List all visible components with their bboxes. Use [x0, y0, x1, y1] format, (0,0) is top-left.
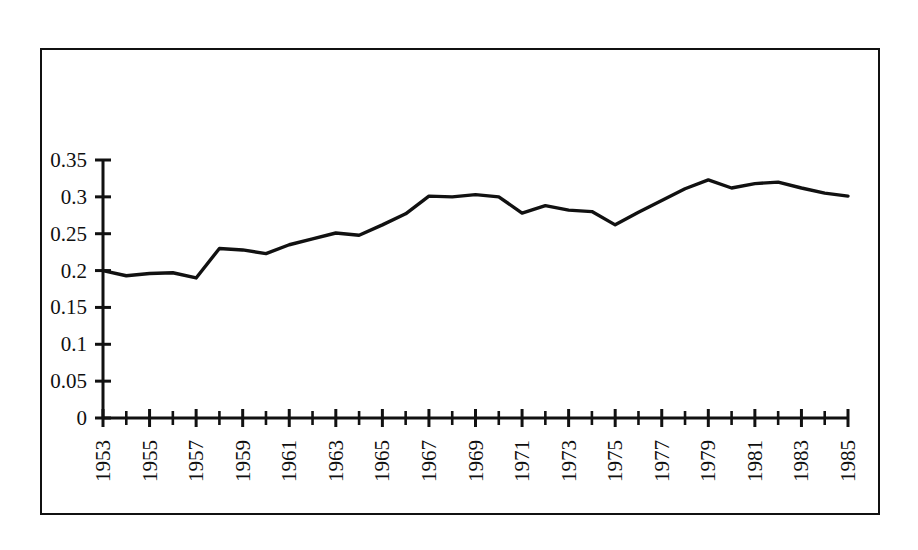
x-tick-label-1961: 1961 — [277, 440, 301, 482]
x-tick-label-1963: 1963 — [324, 440, 348, 482]
y-tick-label-0.15: 0.15 — [50, 295, 87, 319]
figure: 00.050.10.150.20.250.30.3519531955195719… — [0, 0, 918, 550]
x-tick-label-1975: 1975 — [603, 440, 627, 482]
line-chart: 00.050.10.150.20.250.30.3519531955195719… — [0, 0, 918, 550]
x-tick-label-1985: 1985 — [836, 440, 860, 482]
y-tick-label-0: 0 — [77, 406, 88, 430]
y-tick-label-0.3: 0.3 — [61, 185, 87, 209]
x-tick-label-1953: 1953 — [91, 440, 115, 482]
x-tick-label-1955: 1955 — [138, 440, 162, 482]
data-series-line — [103, 180, 848, 278]
y-tick-label-0.05: 0.05 — [50, 369, 87, 393]
y-tick-label-0.2: 0.2 — [61, 259, 87, 283]
x-tick-label-1983: 1983 — [789, 440, 813, 482]
x-tick-label-1979: 1979 — [696, 440, 720, 482]
y-tick-label-0.1: 0.1 — [61, 332, 87, 356]
x-tick-label-1959: 1959 — [231, 440, 255, 482]
x-tick-label-1977: 1977 — [650, 440, 674, 482]
y-tick-label-0.25: 0.25 — [50, 222, 87, 246]
y-tick-label-0.35: 0.35 — [50, 148, 87, 172]
x-tick-label-1971: 1971 — [510, 440, 534, 482]
x-tick-label-1981: 1981 — [743, 440, 767, 482]
x-tick-label-1965: 1965 — [370, 440, 394, 482]
x-tick-label-1973: 1973 — [557, 440, 581, 482]
x-tick-label-1957: 1957 — [184, 440, 208, 482]
x-tick-label-1967: 1967 — [417, 440, 441, 482]
x-tick-label-1969: 1969 — [464, 440, 488, 482]
